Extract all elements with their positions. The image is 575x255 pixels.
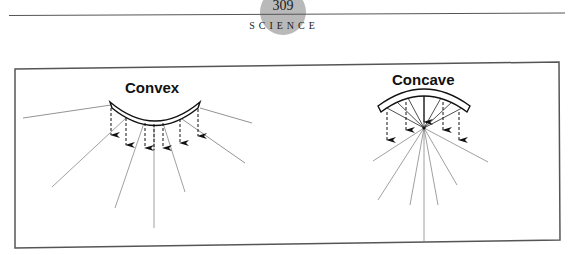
convex-diagram: Convex xyxy=(23,79,252,228)
figure-border xyxy=(15,62,560,248)
convex-rays xyxy=(23,105,252,228)
focal-point xyxy=(422,126,425,129)
concave-label: Concave xyxy=(392,71,455,88)
convex-label: Convex xyxy=(125,79,180,96)
concave-diagram: Concave xyxy=(373,71,488,242)
concave-diverging-rays xyxy=(373,128,488,242)
lens-figure: Convex Concave xyxy=(0,0,575,255)
